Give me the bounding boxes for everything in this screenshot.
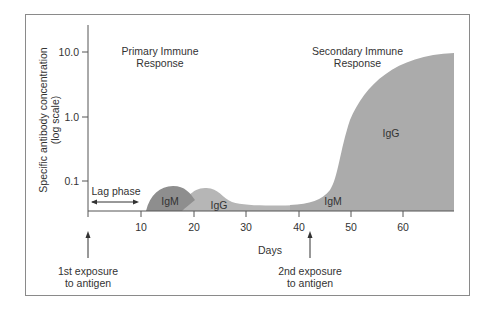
secondary-response-title: Secondary Immune Response [300, 45, 415, 69]
first-exposure-line2: to antigen [48, 277, 128, 289]
y-axis-title-line1: Specific antibody concentration [37, 35, 49, 205]
igg-secondary-label: IgG [379, 127, 403, 139]
primary-title-line1: Primary Immune [110, 45, 210, 57]
first-exposure-label: 1st exposure to antigen [48, 265, 128, 289]
second-exposure-line1: 2nd exposure [270, 265, 350, 277]
x-tick-label: 20 [184, 221, 204, 233]
x-tick-label: 10 [131, 221, 151, 233]
x-tick-label: 40 [289, 221, 309, 233]
second-exposure-arrow [308, 231, 313, 258]
y-tick-label: 1.0 [55, 111, 79, 123]
y-tick-label: 0.1 [55, 175, 79, 187]
lag-phase-arrow [91, 200, 139, 205]
primary-title-line2: Response [110, 57, 210, 69]
second-exposure-line2: to antigen [270, 277, 350, 289]
area-secondary-response [290, 53, 454, 211]
secondary-title-line2: Response [300, 57, 415, 69]
primary-response-title: Primary Immune Response [110, 45, 210, 69]
x-axis-title: Days [250, 244, 290, 256]
lag-phase-label: Lag phase [90, 185, 142, 197]
igg-primary-label: IgG [207, 199, 231, 211]
x-tick-label: 60 [393, 221, 413, 233]
x-tick-label: 50 [341, 221, 361, 233]
igm-secondary-label: IgM [321, 195, 345, 207]
first-exposure-line1: 1st exposure [48, 265, 128, 277]
x-tick-label: 30 [236, 221, 256, 233]
second-exposure-label: 2nd exposure to antigen [270, 265, 350, 289]
secondary-title-line1: Secondary Immune [300, 45, 415, 57]
igm-primary-label: IgM [158, 195, 182, 207]
y-tick-label: 10.0 [55, 46, 79, 58]
first-exposure-arrow [86, 231, 91, 258]
